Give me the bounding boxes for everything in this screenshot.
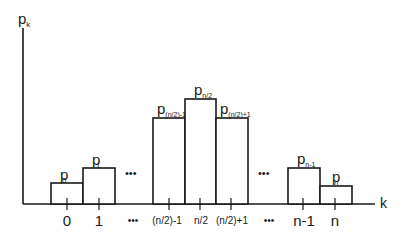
ellipsis-right: ••• <box>258 167 270 179</box>
bar-n-half <box>185 99 216 204</box>
bar-label-n-minus-1: pn-1 <box>297 150 316 168</box>
bar-n <box>320 186 352 204</box>
x-tick-labels: 0 1 ••• (n/2)-1 n/2 (n/2)+1 ••• n-1 n <box>63 212 339 229</box>
tick-label-n: n <box>331 212 339 229</box>
ellipsis-left: ••• <box>125 167 137 179</box>
tick-label-n-half: n/2 <box>194 215 208 226</box>
bar-label-n-half-minus-1: p(n/2)-1 <box>157 100 186 119</box>
bar-label-n: pn <box>332 168 340 186</box>
x-axis-label: k <box>380 195 388 211</box>
tick-label-ellipsis-2: ••• <box>264 215 275 226</box>
bar-label-n-half-plus-1: p(n/2)+1 <box>220 100 251 119</box>
bar-label-n-half: pn/2 <box>194 81 212 99</box>
tick-label-1: 1 <box>95 212 103 229</box>
tick-label-n-minus-1: n-1 <box>293 212 315 229</box>
tick-label-n-half-minus-1: (n/2)-1 <box>152 215 182 226</box>
tick-label-ellipsis-1: ••• <box>128 215 139 226</box>
bar-label-0: p0 <box>60 166 68 184</box>
tick-label-n-half-plus-1: (n/2)+1 <box>216 215 248 226</box>
bar-n-half-minus-1 <box>153 118 185 204</box>
bar-n-minus-1 <box>288 168 320 204</box>
tick-label-0: 0 <box>63 212 71 229</box>
bar-label-1: p1 <box>92 151 100 169</box>
bar-n-half-plus-1 <box>216 118 248 204</box>
y-axis-label: pk <box>18 10 31 29</box>
chart: pk k p0 p1 p(n/2)-1 pn/2 p(n/2)+1 pn-1 p… <box>0 0 401 243</box>
